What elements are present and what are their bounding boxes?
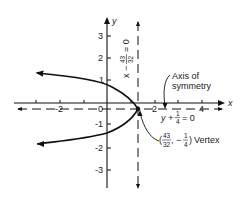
- y-tick-label: 3: [98, 31, 103, 41]
- vertex-y-den: 4: [184, 141, 188, 148]
- vertex-x-num: 43: [163, 132, 171, 139]
- symmetry-eq-num: 1: [176, 110, 180, 117]
- directrix-eq-prefix: x −: [121, 66, 131, 78]
- y-tick-label: -1: [95, 119, 103, 129]
- axis-of-symmetry-label-line2: symmetry: [172, 81, 211, 91]
- vertex-text: Vertex: [194, 135, 220, 145]
- directrix-eq-den: 32: [127, 55, 134, 63]
- symmetry-eq-suffix: = 0: [182, 113, 195, 123]
- axis-of-symmetry-pointer: [164, 75, 170, 106]
- symmetry-line-equation: y + 1 4 = 0: [160, 110, 195, 125]
- y-axis: y: [104, 16, 117, 188]
- y-tick-label: -2: [95, 143, 103, 153]
- vertex-y-num: 1: [184, 132, 188, 139]
- x-axis-label: x: [227, 98, 233, 108]
- vertex-x-den: 32: [163, 141, 171, 148]
- vertex-close: ): [189, 135, 192, 145]
- vertical-line-equation: x − 43 32 = 0: [119, 39, 134, 78]
- pointer-arrow-icon: [163, 103, 168, 109]
- symmetry-eq-prefix: y +: [160, 113, 173, 123]
- y-tick-label: -3: [95, 165, 103, 175]
- y-axis-arrow-icon: [104, 17, 110, 24]
- directrix-eq-num: 43: [119, 55, 126, 63]
- vertex-pointer: [140, 113, 159, 141]
- vertex-sep: , −: [171, 135, 181, 145]
- vertex-point: [136, 107, 141, 112]
- y-tick-label: 2: [98, 53, 103, 63]
- symmetry-eq-den: 4: [176, 118, 180, 125]
- axis-of-symmetry-label-line1: Axis of: [172, 71, 200, 81]
- vertex-label: ( 43 32 , − 1 4 ) Vertex: [159, 132, 220, 148]
- parabola-lower-arrow-icon: [37, 141, 44, 147]
- y-axis-label: y: [111, 16, 117, 26]
- vertex-open: (: [159, 135, 162, 145]
- x-axis-arrow-icon: [218, 100, 225, 106]
- parabola-diagram: x -2 0 2 4 y 3 2 1 -1 -2 -3 x − 43 32 = …: [0, 0, 241, 202]
- directrix-eq-suffix: = 0: [121, 39, 131, 52]
